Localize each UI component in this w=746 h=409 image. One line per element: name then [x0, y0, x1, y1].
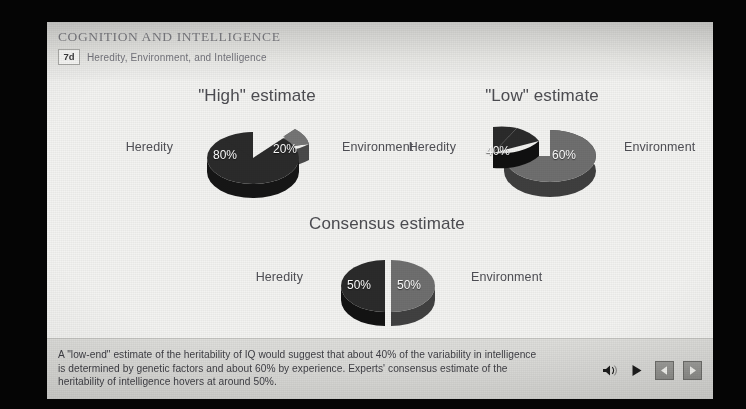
chart-low-right-label: Environment [624, 140, 713, 154]
chart-low-left-label: Heredity [380, 140, 456, 154]
pie-consensus-value-heredity: 50% [347, 278, 371, 292]
chart-consensus-estimate: Consensus estimate Heredity Environment [227, 214, 547, 334]
pie-consensus-value-environment: 50% [397, 278, 421, 292]
play-icon[interactable] [628, 363, 646, 379]
slide-panel: Cognition and Intelligence 7d Heredity, … [47, 22, 713, 399]
pie-high-value-heredity: 80% [213, 148, 237, 162]
chart-title-consensus: Consensus estimate [227, 214, 547, 234]
caption-bar: A "low-end" estimate of the heritability… [47, 338, 713, 399]
section-row: 7d Heredity, Environment, and Intelligen… [58, 49, 713, 65]
pie-high-estimate: 80% 20% [177, 112, 337, 204]
pie-low-value-environment: 60% [552, 148, 576, 162]
chart-consensus-left-label: Heredity [227, 270, 303, 284]
slide-viewer: Cognition and Intelligence 7d Heredity, … [0, 0, 746, 409]
section-label: Heredity, Environment, and Intelligence [87, 52, 267, 63]
next-slide-button[interactable] [683, 361, 702, 380]
pie-consensus-slice-heredity [341, 260, 385, 326]
previous-slide-button[interactable] [655, 361, 674, 380]
chart-title-low: "Low" estimate [392, 86, 692, 106]
pie-low-value-heredity: 40% [486, 144, 510, 158]
slide-header: Cognition and Intelligence 7d Heredity, … [47, 22, 713, 80]
pie-consensus-estimate: 50% 50% [311, 242, 471, 334]
chart-high-estimate: "High" estimate Heredity Environment [107, 86, 407, 206]
chart-consensus-right-label: Environment [471, 270, 571, 284]
pie-high-value-environment: 20% [273, 142, 297, 156]
chart-low-estimate: "Low" estimate Heredity Environment [392, 86, 692, 206]
chapter-title: Cognition and Intelligence [58, 29, 713, 45]
pie-consensus-slice-environment [391, 260, 435, 326]
chart-high-left-label: Heredity [97, 140, 173, 154]
caption-text: A "low-end" estimate of the heritability… [58, 348, 540, 389]
section-number-badge: 7d [58, 49, 80, 65]
charts-area: "High" estimate Heredity Environment [47, 80, 713, 338]
volume-icon[interactable] [601, 363, 619, 379]
playback-controls [601, 361, 702, 380]
pie-low-estimate: 40% 60% [460, 112, 625, 204]
chart-title-high: "High" estimate [107, 86, 407, 106]
